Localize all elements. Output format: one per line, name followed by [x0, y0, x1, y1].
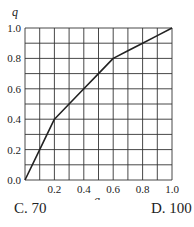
svg-text:0.6: 0.6 — [106, 183, 120, 195]
svg-text:0.6: 0.6 — [7, 83, 21, 95]
svg-text:0.8: 0.8 — [136, 183, 150, 195]
option-c: C. 70 — [14, 200, 47, 217]
svg-text:0.4: 0.4 — [7, 113, 21, 125]
svg-text:0.8: 0.8 — [7, 52, 21, 64]
svg-text:1.0: 1.0 — [165, 183, 179, 195]
line-chart: 0.00.20.40.60.81.0 0.20.40.60.81.0 q g — [0, 0, 194, 200]
svg-text:1.0: 1.0 — [7, 22, 21, 34]
svg-text:0.0: 0.0 — [7, 174, 21, 186]
x-axis-label: g — [94, 193, 100, 200]
svg-text:0.2: 0.2 — [7, 144, 21, 156]
svg-text:0.2: 0.2 — [48, 183, 62, 195]
y-axis-ticks: 0.00.20.40.60.81.0 — [7, 22, 21, 186]
x-axis-ticks: 0.20.40.60.81.0 — [48, 183, 180, 195]
y-axis-label: q — [12, 5, 18, 19]
svg-text:0.4: 0.4 — [77, 183, 91, 195]
grid — [25, 28, 172, 180]
option-d: D. 100 — [151, 200, 192, 217]
